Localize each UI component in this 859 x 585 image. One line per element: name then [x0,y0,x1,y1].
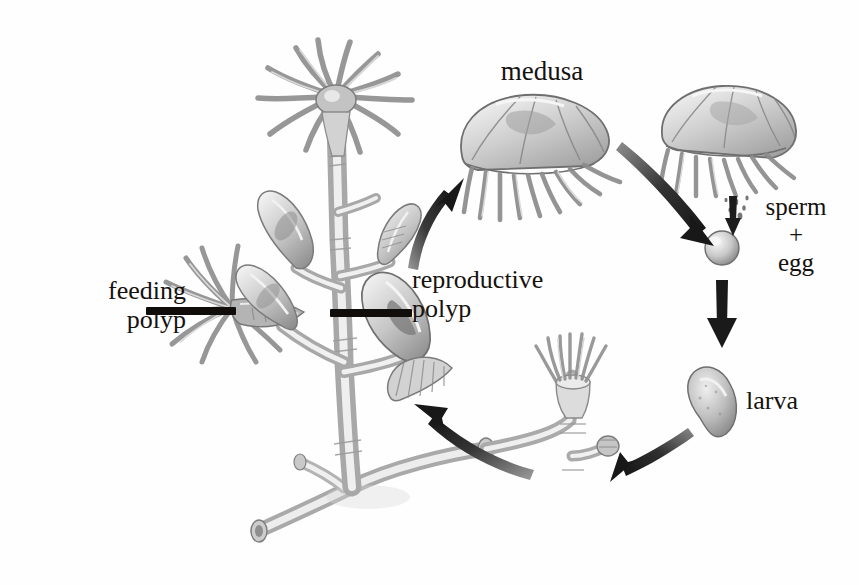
label-reproductive-polyp-line2: polyp [412,296,471,323]
medusa-left [461,95,620,220]
label-medusa: medusa [472,58,612,86]
life-cycle-figure: medusa sperm + egg larva feeding polyp r… [0,0,859,585]
leader-line-feeding-polyp [146,307,236,315]
label-egg: egg [738,250,854,276]
leader-line-reproductive-polyp [330,309,412,317]
zygote [705,231,739,265]
label-feeding-polyp-line1: feeding [62,278,186,305]
label-larva: larva [746,388,798,415]
top-feeding-polyp [258,40,412,156]
young-polyp [486,334,619,470]
label-reproductive-polyp-line1: reproductive [412,267,543,294]
larva [688,367,737,437]
label-sperm: sperm [738,194,854,220]
label-plus: + [738,222,854,248]
gonangium-left-upper [258,191,314,269]
colony-stolon [251,438,494,542]
arrow-larva-to-polyp [622,428,694,476]
